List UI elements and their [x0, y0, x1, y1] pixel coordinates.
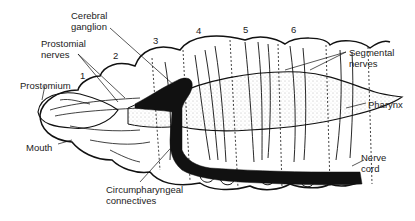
segment-number-2: 2 — [113, 50, 118, 61]
segment-number-6: 6 — [291, 24, 296, 35]
earthworm-diagram — [0, 0, 415, 221]
segment-number-4: 4 — [196, 25, 201, 36]
label-nerve-cord: Nerve cord — [361, 152, 386, 174]
label-mouth: Mouth — [26, 142, 52, 153]
label-segmental-nerves: Segmental nerves — [349, 47, 394, 69]
label-prostomial-nerves: Prostomial nerves — [41, 38, 86, 60]
label-pharynx: Pharynx — [368, 99, 403, 110]
segment-number-1: 1 — [80, 70, 85, 81]
label-prostomium: Prostomium — [20, 80, 71, 91]
label-cerebral-ganglion: Cerebral ganglion — [71, 10, 107, 32]
segment-number-5: 5 — [243, 24, 248, 35]
label-circumpharyngeal-connectives: Circumpharyngeal connectives — [106, 184, 183, 206]
segment-number-3: 3 — [153, 35, 158, 46]
